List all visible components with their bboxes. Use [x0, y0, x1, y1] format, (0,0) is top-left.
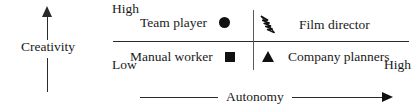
- autonomy-axis-label: Autonomy: [218, 89, 292, 104]
- quadrant-item-film-director: Film director: [260, 15, 370, 34]
- quadrant-item-team-player: Team player: [140, 15, 230, 30]
- creativity-high-label: High: [112, 1, 139, 16]
- filled-circle-marker-icon: [219, 17, 230, 28]
- quadrant-item-film-director-label: Film director: [299, 17, 370, 32]
- quadrant-item-company-planners: Company planners: [262, 49, 390, 64]
- quadrant-item-manual-worker-label: Manual worker: [130, 49, 213, 64]
- scribble-coil-marker-icon: [260, 15, 277, 34]
- creativity-axis-label: Creativity: [2, 39, 94, 54]
- autonomy-axis-segment-left: [140, 97, 218, 98]
- autonomy-axis: Autonomy: [112, 88, 411, 108]
- filled-square-marker-icon: [225, 52, 235, 62]
- creativity-axis-shaft-upper: [47, 14, 48, 40]
- quadrant-item-company-planners-label: Company planners: [288, 49, 390, 64]
- quadrant-item-manual-worker: Manual worker: [130, 49, 235, 64]
- creativity-axis-shaft-lower: [47, 58, 48, 92]
- autonomy-axis-segment-right: [292, 97, 384, 98]
- quadrant-item-team-player-label: Team player: [140, 15, 207, 30]
- vertical-divider-line: [253, 10, 254, 70]
- quadrant-diagram: Creativity High Low High Team player: [0, 0, 411, 112]
- horizontal-divider-line: [113, 41, 409, 42]
- filled-triangle-marker-icon: [262, 51, 274, 62]
- autonomy-arrow-right-icon: [382, 92, 393, 102]
